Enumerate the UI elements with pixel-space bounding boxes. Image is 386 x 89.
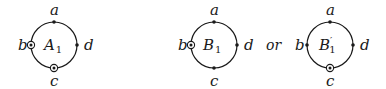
label-c: c <box>210 72 219 89</box>
point-a-dot-icon <box>328 20 332 24</box>
or-connector: or <box>266 37 282 53</box>
point-c-circled-dot-icon <box>326 64 333 71</box>
label-c: c <box>326 72 335 89</box>
diagram-a1: a b c d A1 <box>18 1 94 89</box>
point-b-circled-dot-icon <box>187 41 194 48</box>
label-d: d <box>360 36 370 54</box>
point-b-circled-dot-icon <box>27 41 34 48</box>
label-b: b <box>295 36 305 54</box>
label-d: d <box>84 36 94 54</box>
region-label-b1: B1 <box>202 36 221 55</box>
region-label-b1-prime: B′1 <box>318 35 336 55</box>
point-c-circled-dot-icon <box>50 64 57 71</box>
point-a-dot-icon <box>212 20 216 24</box>
diagram-canvas: a b c d A1 a b c d B1 or a b c d <box>0 0 386 89</box>
diagram-b1-prime: a b c d B′1 <box>295 1 370 89</box>
label-b: b <box>18 36 28 54</box>
label-a: a <box>50 1 59 19</box>
label-b: b <box>178 36 188 54</box>
point-c-dot-icon <box>212 66 216 70</box>
label-a: a <box>326 1 335 19</box>
label-d: d <box>244 36 254 54</box>
label-c: c <box>50 72 59 89</box>
point-d-dot-icon <box>351 43 355 47</box>
point-a-dot-icon <box>52 20 56 24</box>
point-b-dot-icon <box>305 43 309 47</box>
point-d-dot-icon <box>75 43 79 47</box>
region-label-a1: A1 <box>42 36 62 55</box>
label-a: a <box>210 1 219 19</box>
point-d-dot-icon <box>235 43 239 47</box>
diagram-b1: a b c d B1 <box>178 1 254 89</box>
